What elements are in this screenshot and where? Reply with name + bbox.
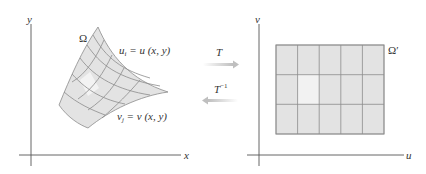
- omega-prime-label: Ω′: [388, 45, 399, 56]
- highlight-cell: [298, 75, 320, 105]
- forward-arrow: [203, 61, 239, 69]
- u-line-label: ui = u (x, y): [119, 45, 170, 58]
- u-axis-label: u: [406, 150, 412, 161]
- x-axis-label: x: [184, 150, 189, 161]
- rectangular-grid: [276, 45, 384, 134]
- inverse-transform-label: T−1: [214, 83, 228, 95]
- forward-transform-label: T: [216, 47, 222, 58]
- omega-label: Ω: [79, 33, 87, 44]
- v-line-label: vj = v (x, y): [117, 111, 167, 124]
- v-axis-label: v: [255, 14, 260, 25]
- y-axis-label: y: [27, 14, 32, 25]
- inverse-arrow: [202, 97, 238, 105]
- mapping-diagram: [0, 0, 426, 174]
